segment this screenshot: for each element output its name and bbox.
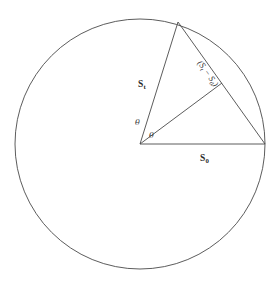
geometry-figure: St S0 (St − S0) θ θ — [0, 0, 277, 288]
label-angle-theta-upper: θ — [135, 119, 140, 127]
label-radius-st-subscript: t — [144, 83, 146, 90]
label-radius-st-base: S — [138, 79, 143, 89]
figure-canvas — [0, 0, 277, 288]
label-angle-theta-lower: θ — [149, 132, 154, 140]
label-radius-s0-base: S — [200, 153, 205, 163]
label-radius-s0-subscript: 0 — [206, 157, 210, 164]
label-radius-st: St — [138, 80, 146, 90]
label-radius-s0: S0 — [200, 154, 209, 164]
